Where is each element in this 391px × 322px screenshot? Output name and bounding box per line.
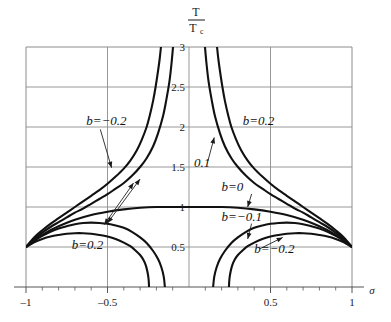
y-tick-label: 3 (180, 41, 186, 53)
y-tick-label: 2.5 (171, 81, 185, 93)
chart-figure: 0.511.522.53 –1–0.50.51 b=−0.2b=0.20.1b=… (0, 0, 391, 322)
ann-b-neg02-bottom: b=−0.2 (254, 241, 295, 256)
y-tick-label: 2 (180, 121, 186, 133)
y-tick-label: 1 (180, 201, 186, 213)
x-tick-label: –1 (20, 296, 32, 308)
ann-b-neg01: b=−0.1 (222, 209, 262, 224)
ann-b-pos02-bottom: b=0.2 (72, 237, 104, 252)
y-axis-label-denominator: T (189, 21, 197, 35)
ann-b-neg02-top: b=−0.2 (86, 113, 127, 128)
x-axis-label: σ (369, 284, 375, 296)
ann-01: 0.1 (194, 155, 210, 170)
x-tick-label: 0.5 (264, 296, 278, 308)
phase-diagram-plot: 0.511.522.53 –1–0.50.51 b=−0.2b=0.20.1b=… (0, 0, 391, 322)
ann-b-0: b=0 (222, 179, 244, 194)
y-tick-label: 0.5 (171, 241, 185, 253)
x-tick-label: –0.5 (97, 296, 118, 308)
y-tick-label: 1.5 (171, 161, 185, 173)
ann-b-pos02-top: b=0.2 (243, 113, 275, 128)
y-axis-label-numerator: T (192, 5, 200, 19)
x-tick-label: 1 (349, 296, 355, 308)
y-axis-label-denominator-subscript: c (200, 27, 204, 36)
